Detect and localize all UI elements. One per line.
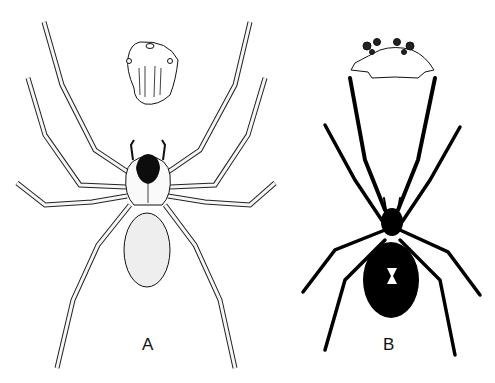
illustration-canvas (0, 0, 495, 383)
abdomen-a (124, 213, 170, 287)
panel-label-a: A (142, 335, 153, 355)
panel-label-b: B (383, 335, 394, 355)
spider-a-drawing (17, 22, 275, 368)
spider-b-drawing (303, 39, 480, 356)
eye-region-inset-icon (351, 39, 434, 79)
carapace-inset-icon (127, 42, 179, 104)
